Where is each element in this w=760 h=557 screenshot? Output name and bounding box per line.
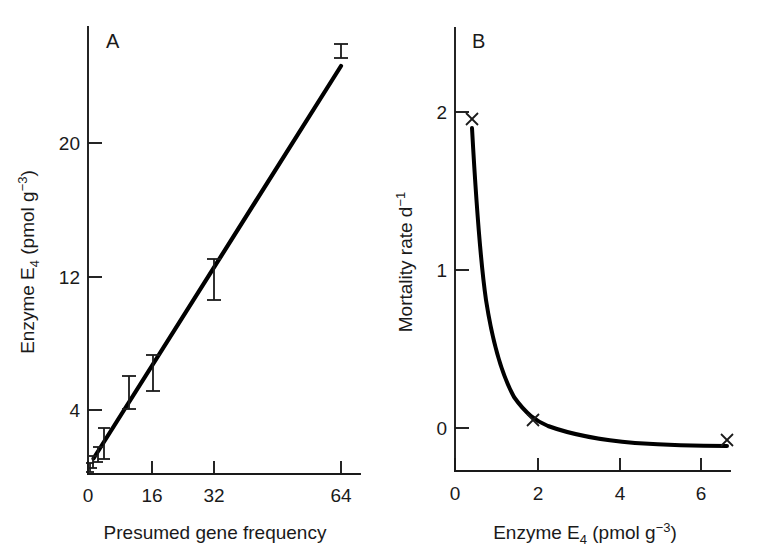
panel-b-x-tick-label-4: 4 [615, 483, 626, 504]
panel-b-x-tick-label-0: 0 [450, 483, 461, 504]
panel-b-y-tick-label-1: 1 [436, 260, 447, 281]
panel-a-y-tick-label-20: 20 [59, 133, 80, 154]
panel-b-marker-x-1 [466, 113, 478, 125]
panel-b-plot: 0 1 2 0 2 4 6 B Enzyme E4 (pmol g−3) Mor… [390, 0, 760, 557]
panel-a-error-bar [334, 44, 348, 58]
panel-b-xlabel-unit-open: (pmol g [587, 522, 656, 543]
svg-text:Enzyme E4 (pmol g−3): Enzyme E4 (pmol g−3) [15, 170, 42, 354]
panel-a-ylabel-main: Enzyme E [17, 267, 38, 354]
panel-a-x-axis-title: Presumed gene frequency [104, 522, 327, 543]
panel-a-ylabel-unit-close: ) [17, 170, 38, 176]
panel-b-y-tick-label-2: 2 [436, 102, 447, 123]
panel-a-ylabel-sub: 4 [27, 260, 42, 267]
panel-a-x-tick-label-64: 64 [330, 485, 352, 506]
panel-a-letter: A [106, 30, 120, 52]
panel-a-regression-line [94, 66, 342, 459]
figure-container: 4 12 20 0 16 32 64 A Presumed gene frequ… [0, 0, 760, 557]
panel-b-letter: B [472, 30, 485, 52]
panel-b-xlabel-main: Enzyme E [493, 522, 580, 543]
panel-b-x-axis-title: Enzyme E4 (pmol g−3) [493, 520, 677, 547]
panel-a-x-tick-label-0: 0 [83, 485, 94, 506]
panel-a-ylabel-unit-sup: −3 [15, 177, 30, 192]
panel-a-error-bar [207, 259, 221, 300]
panel-b-x-tick-label-6: 6 [696, 483, 707, 504]
panel-a-ylabel-unit-open: (pmol g [17, 191, 38, 260]
panel-b: 0 1 2 0 2 4 6 B Enzyme E4 (pmol g−3) Mor… [390, 0, 760, 557]
panel-b-xlabel-unit-sup: −3 [656, 520, 671, 535]
panel-a: 4 12 20 0 16 32 64 A Presumed gene frequ… [0, 0, 390, 557]
panel-b-ylabel-sup: −1 [393, 192, 408, 207]
svg-text:Mortality rate d−1: Mortality rate d−1 [393, 192, 416, 332]
panel-a-plot: 4 12 20 0 16 32 64 A Presumed gene frequ… [0, 0, 390, 557]
panel-b-x-tick-label-2: 2 [533, 483, 544, 504]
panel-a-y-tick-label-4: 4 [69, 400, 80, 421]
panel-b-y-tick-label-0: 0 [436, 418, 447, 439]
panel-b-xlabel-sub: 4 [580, 532, 587, 547]
panel-a-y-axis-title: Enzyme E4 (pmol g−3) [15, 170, 42, 354]
panel-a-x-tick-label-32: 32 [203, 485, 224, 506]
panel-b-mortality-curve [472, 128, 727, 446]
panel-a-x-tick-label-16: 16 [141, 485, 162, 506]
panel-b-xlabel-unit-close: ) [670, 522, 676, 543]
panel-b-ylabel-main: Mortality rate d [395, 207, 416, 333]
panel-a-y-tick-label-12: 12 [59, 267, 80, 288]
panel-b-y-axis-title: Mortality rate d−1 [393, 192, 416, 332]
